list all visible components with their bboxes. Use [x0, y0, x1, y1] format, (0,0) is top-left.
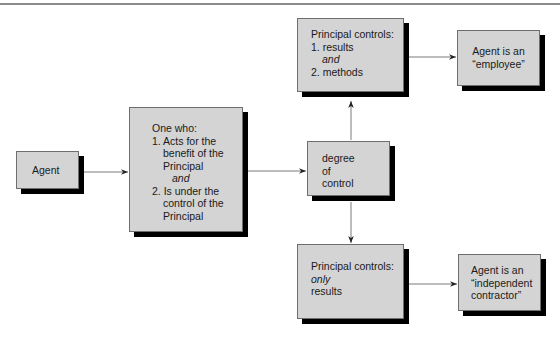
definition-line-7: control of the	[152, 197, 242, 210]
definition-line-and: and	[152, 172, 242, 185]
controls-both-line-2: 1. results	[311, 41, 403, 54]
contractor-line-3: contractor”	[471, 289, 540, 302]
contractor-line-2: “independent	[471, 277, 540, 290]
node-employee: Agent is an “employee”	[457, 30, 540, 86]
node-independent-contractor: Agent is an “independent contractor”	[458, 254, 541, 311]
controls-both-line-4: 2. methods	[311, 66, 403, 79]
definition-line-6: 2. Is under the	[152, 185, 242, 198]
definition-line-8: Principal	[152, 210, 242, 223]
degree-line-2: of	[322, 165, 389, 178]
node-controls-results-and-methods: Principal controls: 1. results and 2. me…	[297, 18, 404, 92]
controls-both-line-and: and	[311, 53, 403, 66]
definition-line-1: One who:	[152, 122, 242, 135]
controls-both-line-1: Principal controls:	[311, 28, 403, 41]
controls-results-line-1: Principal controls:	[311, 260, 403, 273]
node-agent-label: Agent	[32, 164, 59, 177]
node-degree-of-control: degree of control	[307, 141, 390, 196]
degree-line-1: degree	[322, 152, 389, 165]
node-agent: Agent	[16, 151, 79, 189]
controls-results-line-3: results	[311, 285, 403, 298]
employee-line-2: “employee”	[458, 58, 539, 71]
controls-results-line-only: only	[311, 273, 403, 286]
node-controls-only-results: Principal controls: only results	[297, 244, 404, 319]
definition-line-2: 1. Acts for the	[152, 135, 242, 148]
contractor-line-1: Agent is an	[471, 264, 540, 277]
definition-line-4: Principal	[152, 160, 242, 173]
employee-line-1: Agent is an	[458, 45, 539, 58]
definition-line-3: benefit of the	[152, 147, 242, 160]
degree-line-3: control	[322, 177, 389, 190]
node-definition: One who: 1. Acts for the benefit of the …	[129, 107, 243, 232]
